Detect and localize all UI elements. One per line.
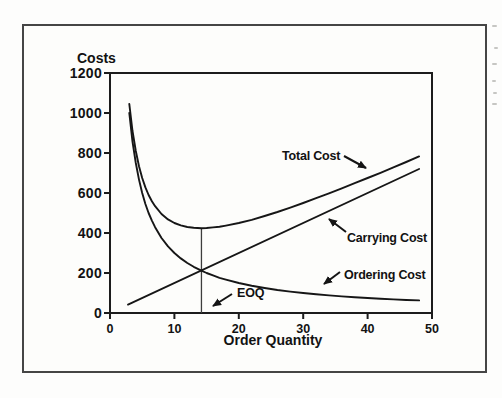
ordering-cost-label: Ordering Cost [344,268,426,282]
ordering-cost-arrow [324,272,340,284]
total-cost-curve [129,104,419,228]
x-tick-label: 40 [361,322,375,336]
y-axis-title: Costs [77,50,116,66]
eoq-chart: 02004006008001000120001020304050 Costs O… [0,0,502,398]
y-tick-label: 1000 [70,105,102,121]
x-tick-label: 0 [107,322,114,336]
scanned-figure-page: 02004006008001000120001020304050 Costs O… [0,0,502,398]
carrying-cost-label: Carrying Cost [347,231,428,245]
scan-artifact [492,63,497,65]
y-tick-label: 0 [94,305,102,321]
y-tick-label: 1200 [70,65,102,81]
scan-artifact [492,25,497,27]
y-tick-label: 200 [78,265,102,281]
eoq-arrow [213,294,232,306]
y-tick-label: 600 [78,185,102,201]
total-cost-arrow [344,156,366,168]
carrying-cost-arrow [329,219,346,232]
scan-artifact [492,80,496,82]
scan-artifact [494,47,498,49]
scan-artifact [493,92,497,94]
y-tick-label: 400 [78,225,102,241]
x-tick-label: 10 [167,322,181,336]
y-tick-label: 800 [78,145,102,161]
x-tick-label: 50 [425,322,439,336]
eoq-label: EOQ [237,286,265,300]
x-axis-title: Order Quantity [224,332,323,348]
total-cost-label: Total Cost [282,149,341,163]
scan-artifact [492,103,497,105]
